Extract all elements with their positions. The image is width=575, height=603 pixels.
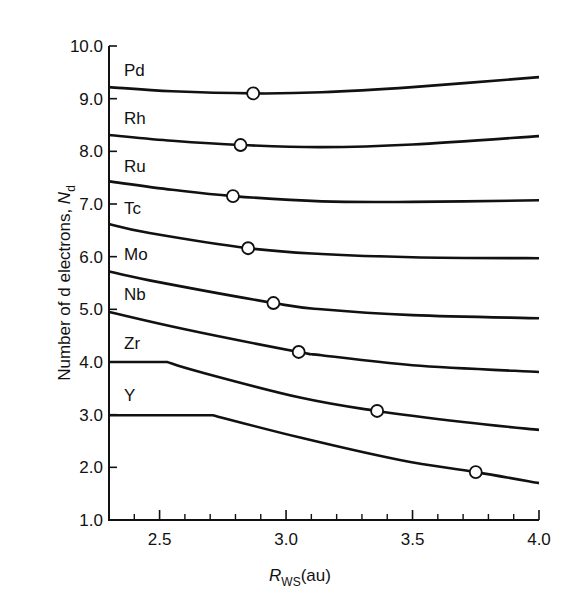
marker-rh bbox=[235, 139, 247, 151]
label-nb: Nb bbox=[124, 285, 146, 304]
x-tick-label: 3.0 bbox=[274, 530, 298, 549]
y-tick-label: 10.0 bbox=[70, 37, 103, 56]
label-pd: Pd bbox=[124, 61, 145, 80]
curve-mo bbox=[109, 271, 539, 318]
marker-pd bbox=[247, 87, 259, 99]
curve-pd bbox=[109, 77, 539, 93]
series-curves bbox=[109, 77, 539, 483]
y-tick-label: 6.0 bbox=[79, 248, 103, 267]
curve-tc bbox=[109, 224, 539, 258]
y-tick-label: 8.0 bbox=[79, 142, 103, 161]
label-mo: Mo bbox=[124, 245, 148, 264]
label-rh: Rh bbox=[124, 109, 146, 128]
x-tick-label: 3.5 bbox=[401, 530, 425, 549]
d-electron-count-chart: 1.02.03.04.05.06.07.08.09.010.02.53.03.5… bbox=[0, 0, 575, 603]
curve-zr bbox=[109, 362, 539, 430]
label-y: Y bbox=[124, 386, 135, 405]
x-axis-title: RWS(au) bbox=[269, 566, 331, 589]
y-tick-label: 1.0 bbox=[79, 511, 103, 530]
marker-y bbox=[470, 466, 482, 478]
marker-zr bbox=[371, 405, 383, 417]
x-tick-label: 2.5 bbox=[148, 530, 172, 549]
label-tc: Tc bbox=[124, 199, 142, 218]
marker-ru bbox=[227, 190, 239, 202]
marker-tc bbox=[242, 242, 254, 254]
y-tick-label: 3.0 bbox=[79, 406, 103, 425]
marker-nb bbox=[293, 346, 305, 358]
y-tick-label: 4.0 bbox=[79, 353, 103, 372]
y-axis-title: Number of d electrons, Nd bbox=[55, 185, 78, 381]
label-ru: Ru bbox=[124, 157, 146, 176]
marker-mo bbox=[267, 297, 279, 309]
y-tick-label: 9.0 bbox=[79, 90, 103, 109]
x-tick-label: 4.0 bbox=[527, 530, 551, 549]
y-tick-label: 5.0 bbox=[79, 300, 103, 319]
y-tick-label: 7.0 bbox=[79, 195, 103, 214]
curve-ru bbox=[109, 181, 539, 202]
label-zr: Zr bbox=[124, 334, 140, 353]
curve-rh bbox=[109, 135, 539, 147]
y-tick-label: 2.0 bbox=[79, 458, 103, 477]
